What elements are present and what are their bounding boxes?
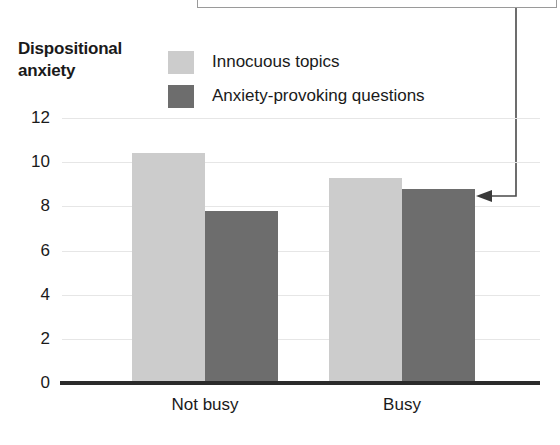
bar-not-busy-anxiety-provoking-questions xyxy=(205,211,278,383)
x-tick-label-busy: Busy xyxy=(383,395,421,415)
bar-chart-figure: Dispositional anxiety Innocuous topics A… xyxy=(0,0,560,445)
x-tick-label-not-busy: Not busy xyxy=(171,395,238,415)
bar-busy-innocuous-topics xyxy=(329,178,402,383)
bars-layer xyxy=(0,0,560,383)
x-axis-line xyxy=(60,381,540,385)
bar-busy-anxiety-provoking-questions xyxy=(402,189,475,383)
bar-not-busy-innocuous-topics xyxy=(132,153,205,383)
